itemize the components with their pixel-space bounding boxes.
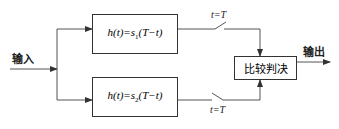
bottom-switch (212, 93, 223, 100)
output-label: 输出 (303, 47, 325, 58)
bottom-switch-label: t=T (210, 105, 225, 115)
top-switch (215, 22, 226, 29)
top-switch-label: t=T (211, 10, 226, 20)
decision-label: 比较判决 (244, 60, 288, 76)
decision-box: 比较判决 (234, 56, 297, 80)
filter-formula-1: h(t)=s1(T−t) (107, 26, 162, 41)
filter-box-2: h(t)=s2(T−t) (92, 77, 178, 117)
filter-formula-2: h(t)=s2(T−t) (107, 89, 162, 104)
input-label: 输入 (12, 54, 34, 65)
filter-box-1: h(t)=s1(T−t) (92, 14, 178, 54)
